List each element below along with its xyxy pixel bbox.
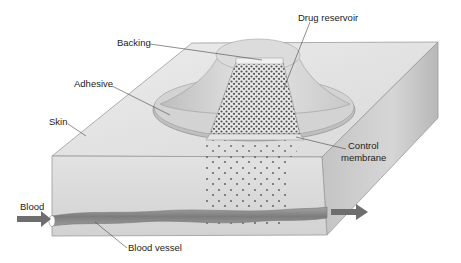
label-membrane: membrane [341,152,386,163]
skin-leader [68,124,86,136]
blood-vessel-opening [49,216,55,227]
transdermal-patch-diagram [0,0,461,263]
label-adhesive: Adhesive [74,78,113,89]
control-membrane [206,134,304,140]
backing-layer [236,58,283,64]
label-control: Control [348,140,379,151]
label-blood: Blood [20,201,44,212]
label-skin: Skin [49,116,67,127]
label-drug-reservoir: Drug reservoir [298,12,358,23]
label-backing: Backing [117,37,151,48]
blood-flow-in-arrow [17,211,51,227]
drug-diffusion-top [205,140,300,157]
label-blood-vessel: Blood vessel [128,242,182,253]
